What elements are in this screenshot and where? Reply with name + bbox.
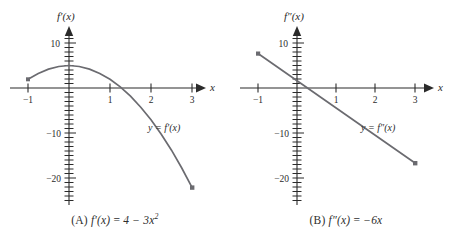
x-axis-a bbox=[10, 84, 206, 93]
x-tick-label-neg1-b: −1 bbox=[253, 95, 263, 105]
panel-b: f″(x) x 10 −10 −20 −1 1 2 3 y = f″(x) (B… bbox=[231, 0, 461, 245]
curve-label-a: y = f′(x) bbox=[147, 122, 181, 134]
x-axis-b bbox=[240, 84, 434, 93]
y-tick-label-neg20-b: −20 bbox=[274, 174, 289, 184]
x-axis-label-b: x bbox=[437, 81, 443, 93]
caption-b: (B) f″(x) = −6x bbox=[231, 212, 461, 226]
y-axis-label-a: f′(x) bbox=[57, 10, 75, 23]
plot-a: f′(x) x 10 −10 −20 −1 1 2 3 y = f′(x) bbox=[0, 0, 230, 212]
plot-b: f″(x) x 10 −10 −20 −1 1 2 3 y = f″(x) bbox=[231, 0, 461, 212]
y-axis-ticks-b bbox=[293, 39, 305, 201]
x-tick-label-3-a: 3 bbox=[190, 95, 195, 105]
y-axis-label-b: f″(x) bbox=[284, 10, 304, 23]
y-tick-label-10-b: 10 bbox=[279, 39, 289, 49]
y-axis-ticks-a bbox=[65, 39, 77, 201]
endpoint-dot-right-b bbox=[413, 161, 417, 165]
panel-a: f′(x) x 10 −10 −20 −1 1 2 3 y = f′(x) (A… bbox=[0, 0, 230, 245]
x-tick-label-1-a: 1 bbox=[108, 95, 113, 105]
caption-function-a: f'(x) bbox=[91, 214, 110, 226]
caption-tag-b: (B) bbox=[310, 214, 326, 226]
x-tick-label-1-b: 1 bbox=[334, 95, 339, 105]
caption-function-b: f″(x) bbox=[329, 214, 351, 226]
endpoint-dot-left-b bbox=[256, 52, 260, 56]
y-tick-label-neg10-b: −10 bbox=[274, 129, 289, 139]
caption-exponent-a: 2 bbox=[155, 212, 159, 221]
caption-expression-a: 4 − 3x bbox=[123, 214, 154, 226]
caption-equals-b: = bbox=[353, 214, 360, 226]
y-tick-label-10-a: 10 bbox=[51, 39, 61, 49]
x-tick-label-3-b: 3 bbox=[413, 95, 418, 105]
y-tick-label-neg10-a: −10 bbox=[46, 129, 61, 139]
y-tick-label-neg20-a: −20 bbox=[46, 174, 61, 184]
x-tick-label-2-a: 2 bbox=[149, 95, 154, 105]
x-tick-label-2-b: 2 bbox=[373, 95, 378, 105]
caption-tag-a: (A) bbox=[71, 214, 88, 226]
curve-f-double-prime bbox=[258, 54, 415, 164]
x-axis-label-a: x bbox=[209, 81, 215, 93]
endpoint-dot-right-a bbox=[190, 185, 194, 189]
curve-label-b: y = f″(x) bbox=[360, 122, 396, 134]
caption-equals-a: = bbox=[113, 214, 120, 226]
figure-two-panel-derivative-graphs: f′(x) x 10 −10 −20 −1 1 2 3 y = f′(x) (A… bbox=[0, 0, 461, 245]
endpoint-dot-left-a bbox=[26, 77, 30, 81]
x-tick-label-neg1-a: −1 bbox=[23, 95, 33, 105]
caption-a: (A) f'(x) = 4 − 3x2 bbox=[0, 212, 230, 226]
caption-expression-b: −6x bbox=[363, 214, 382, 226]
